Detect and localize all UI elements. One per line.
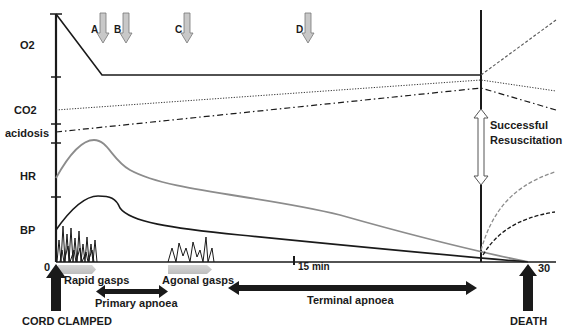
agonal-gasps-bar [168,265,212,274]
hr-recovery-line [481,172,555,250]
death-arrow [519,264,537,311]
label-death: DEATH [510,315,547,327]
label-x-zero: 0 [44,261,50,273]
label-o2: O2 [20,39,35,51]
marker-a: A [91,13,109,43]
asphyxia-diagram: O2 CO2 acidosis HR BP 0 15 min Rapid gas… [0,0,566,333]
label-acidosis: acidosis [5,127,49,139]
marker-d: D [296,13,314,43]
label-agonal-gasps: Agonal gasps [162,274,234,286]
label-x-thirty: 30 [538,262,550,274]
label-primary-apnoea: Primary apnoea [95,297,178,309]
bp-recovery-line [483,212,555,255]
marker-c-label: C [175,24,182,35]
label-bp: BP [20,224,35,236]
resuscitation-double-arrow [474,109,488,185]
marker-b-label: B [114,24,121,35]
label-successful: Successful [490,119,548,131]
label-cord-clamped: CORD CLAMPED [22,315,112,327]
marker-d-label: D [296,24,303,35]
label-terminal-apnoea: Terminal apnoea [307,294,394,306]
label-hr: HR [20,170,36,182]
label-15-min: 15 min [298,261,330,272]
marker-b: B [114,13,132,43]
marker-a-label: A [91,24,98,35]
label-co2: CO2 [14,104,37,116]
rapid-gasps-spikes [57,226,97,262]
hr-curve [56,140,528,262]
marker-c: C [175,13,193,43]
terminal-apnoea-arrow [228,281,477,295]
rapid-gasps-bar [58,265,96,274]
agonal-gasps-spikes [168,237,214,262]
label-resuscitation: Resuscitation [490,134,562,146]
label-rapid-gasps: Rapid gasps [64,274,129,286]
o2-recovery-line [481,20,556,75]
